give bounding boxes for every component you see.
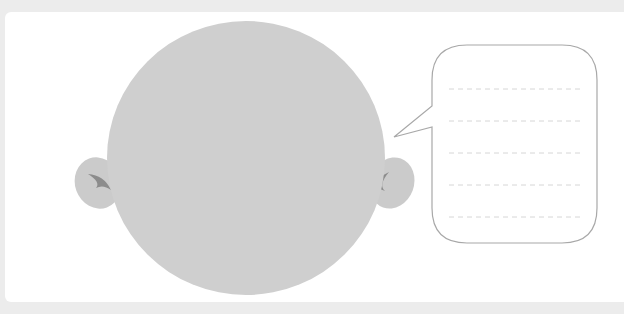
speech-bubble-text[interactable] bbox=[449, 70, 582, 220]
face-circle bbox=[107, 21, 385, 295]
